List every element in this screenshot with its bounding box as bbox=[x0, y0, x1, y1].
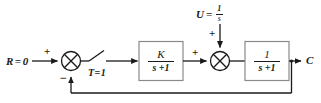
switch-label: T = 1 bbox=[88, 67, 106, 78]
block2-transfer-function: 1 s +1 bbox=[245, 42, 289, 81]
disturbance-equals: = bbox=[206, 8, 212, 20]
summer1-minus-sign: − bbox=[60, 72, 67, 84]
block-diagram-canvas: R = 0 + − T = 1 K s +1 + + U = 1 s 1 s +… bbox=[0, 0, 321, 103]
block1-denominator: s +1 bbox=[149, 63, 172, 74]
input-variable: R bbox=[6, 55, 13, 67]
block2-denominator: s +1 bbox=[255, 63, 278, 74]
output-label: C bbox=[306, 55, 313, 66]
summer2-plus-sign-left: + bbox=[192, 47, 198, 58]
block1-transfer-function: K s +1 bbox=[139, 42, 183, 81]
disturbance-variable: U bbox=[196, 8, 204, 20]
summer2-plus-sign-top: + bbox=[209, 28, 215, 39]
disturbance-denominator: s bbox=[215, 15, 224, 23]
switch-value: 1 bbox=[101, 67, 106, 78]
feedback-tap-point bbox=[290, 59, 293, 62]
switch-variable: T bbox=[88, 67, 94, 78]
input-equals: = bbox=[15, 55, 21, 67]
input-value: 0 bbox=[23, 55, 29, 67]
switch-equals: = bbox=[95, 67, 101, 78]
switch-blade bbox=[89, 51, 104, 62]
block2-numerator: 1 bbox=[261, 49, 273, 61]
disturbance-numerator: 1 bbox=[214, 5, 224, 13]
disturbance-label: U = 1 s bbox=[196, 5, 224, 24]
summer1-plus-sign: + bbox=[44, 46, 50, 57]
block1-numerator: K bbox=[154, 49, 167, 61]
input-signal-label: R = 0 bbox=[6, 55, 28, 67]
disturbance-fraction: 1 s bbox=[214, 5, 224, 24]
